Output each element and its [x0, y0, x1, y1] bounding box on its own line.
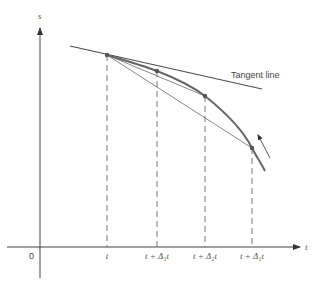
direction-arrow-icon [258, 135, 270, 158]
axes [7, 28, 300, 278]
secant-lines [107, 55, 252, 148]
secant-delta2 [107, 55, 205, 96]
tick-label-t-delta2: t + Δ₂t [193, 251, 217, 261]
tick-label-t-delta3: t + Δ₃t [145, 251, 169, 261]
secant-tangent-diagram: s t 0 Tangent line t t + Δ₃t t + Δ₂t t +… [0, 0, 318, 286]
tangent-line [70, 46, 262, 89]
tangent-line-label: Tangent line [231, 70, 280, 80]
point-t-delta3 [155, 69, 159, 73]
t-axis-label: t [305, 242, 308, 252]
point-t-delta1 [250, 146, 254, 150]
secant-delta1 [107, 55, 252, 148]
tick-label-t-delta1: t + Δ₁t [240, 251, 264, 261]
point-t [105, 53, 109, 57]
tick-label-t: t [106, 251, 109, 261]
projection-lines [107, 55, 252, 247]
origin-label: 0 [29, 251, 34, 261]
s-axis-label: s [38, 11, 42, 21]
point-t-delta2 [203, 94, 207, 98]
